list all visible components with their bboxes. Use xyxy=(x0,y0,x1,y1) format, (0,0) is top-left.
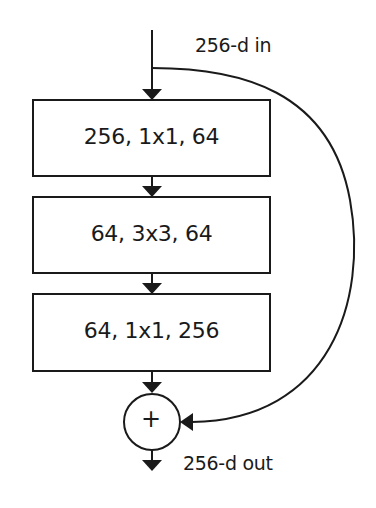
layer-label-3: 64, 1x1, 256 xyxy=(33,318,270,343)
arrow-down-icon xyxy=(142,283,162,294)
output-label: 256-d out xyxy=(183,452,273,474)
diagram-canvas xyxy=(0,0,376,508)
layer-label-2: 64, 3x3, 64 xyxy=(33,221,270,246)
arrow-down-icon xyxy=(142,460,162,471)
plus-icon: + xyxy=(141,405,161,433)
layer-label-1: 256, 1x1, 64 xyxy=(33,124,270,149)
arrow-down-icon xyxy=(142,186,162,197)
arrow-down-icon xyxy=(142,89,162,100)
input-label: 256-d in xyxy=(195,34,271,56)
arrow-left-icon xyxy=(180,413,193,431)
arrow-down-icon xyxy=(142,382,162,393)
